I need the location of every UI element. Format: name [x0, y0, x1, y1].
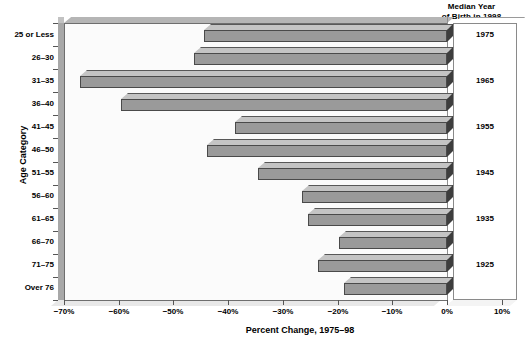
- x-axis-label-5: −30%: [261, 307, 305, 316]
- y-axis-label-wrap: 36–40: [0, 99, 54, 108]
- x-axis-tick: [173, 300, 174, 305]
- bar-front-face: [302, 191, 447, 203]
- y-axis-label-wrap: 31–35: [0, 76, 54, 85]
- y-axis-tick: [53, 23, 58, 24]
- y-axis-label-wrap: 66–70: [0, 237, 54, 246]
- x-axis-tick: [283, 300, 284, 305]
- bar-7: [258, 162, 453, 185]
- bar-front-face: [339, 237, 447, 249]
- y-axis-tick: [53, 300, 58, 301]
- y-axis-tick: [53, 185, 58, 186]
- y-axis-label-8: 56–60: [2, 191, 54, 200]
- y-axis-label-6: 46–50: [2, 145, 54, 154]
- y-axis-label-3: 31–35: [2, 76, 54, 85]
- bar-10: [339, 231, 453, 254]
- y-axis-label-wrap: 61–65: [0, 214, 54, 223]
- x-axis-label-7: −10%: [370, 307, 414, 316]
- y-axis-tick: [53, 162, 58, 163]
- y-axis-label-wrap: 25 or Less: [0, 30, 54, 39]
- x-axis-tick: [228, 300, 229, 305]
- median-year-value-1: 1975: [453, 30, 517, 39]
- median-year-value-3: 1955: [453, 122, 517, 131]
- bar-end-cap: [447, 277, 453, 295]
- y-axis-label-wrap: 26–30: [0, 53, 54, 62]
- bar-11: [318, 254, 453, 277]
- x-axis-label-3: −50%: [151, 307, 195, 316]
- y-axis-label-2: 26–30: [2, 53, 54, 62]
- bar-front-face: [204, 30, 447, 42]
- x-axis-tick: [338, 300, 339, 305]
- x-axis-label-2: −60%: [97, 307, 141, 316]
- y-axis-tick: [53, 92, 58, 93]
- bar-front-face: [207, 145, 447, 157]
- x-axis-label-1: −70%: [42, 307, 86, 316]
- x-axis-label-4: −40%: [206, 307, 250, 316]
- bar-front-face: [258, 168, 447, 180]
- median-year-value-4: 1945: [453, 168, 517, 177]
- bar-8: [302, 185, 453, 208]
- y-axis-label-9: 61–65: [2, 214, 54, 223]
- median-year-value-6: 1925: [453, 260, 517, 269]
- y-axis-tick: [53, 138, 58, 139]
- median-year-value-2: 1965: [453, 76, 517, 85]
- median-year-value-5: 1935: [453, 214, 517, 223]
- y-axis-tick: [53, 277, 58, 278]
- y-axis-label-10: 66–70: [2, 237, 54, 246]
- y-axis-tick: [53, 254, 58, 255]
- bar-front-face: [308, 214, 447, 226]
- bar-9: [308, 208, 453, 231]
- bar-4: [121, 93, 453, 116]
- bar-5: [235, 116, 453, 139]
- bar-front-face: [121, 99, 447, 111]
- bar-front-face: [80, 76, 447, 88]
- y-axis-label-5: 41–45: [2, 122, 54, 131]
- bar-1: [204, 24, 453, 47]
- bar-12: [344, 277, 453, 300]
- y-axis-tick: [53, 208, 58, 209]
- y-axis-label-7: 51–55: [2, 168, 54, 177]
- bar-front-face: [318, 260, 447, 272]
- bar-front-face: [235, 122, 447, 134]
- y-axis-label-1: 25 or Less: [2, 30, 54, 39]
- x-axis-label-6: −20%: [316, 307, 360, 316]
- y-axis-tick: [53, 69, 58, 70]
- x-axis-tick: [119, 300, 120, 305]
- y-axis-label-wrap: Over 76: [0, 283, 54, 292]
- x-axis-tick: [447, 300, 448, 305]
- y-axis-tick: [53, 115, 58, 116]
- y-axis-tick: [53, 231, 58, 232]
- bar-6: [207, 139, 453, 162]
- x-axis-title: Percent Change, 1975–98: [140, 325, 460, 335]
- y-axis-tick: [53, 46, 58, 47]
- bar-3: [80, 70, 453, 93]
- y-axis-label-11: 71–75: [2, 260, 54, 269]
- x-axis-tick: [392, 300, 393, 305]
- x-axis-tick: [64, 300, 65, 305]
- y-axis-label-wrap: 71–75: [0, 260, 54, 269]
- bar-front-face: [344, 283, 447, 295]
- bar-2: [194, 47, 453, 70]
- x-axis-label-8: 0%: [425, 307, 469, 316]
- x-axis-tick: [502, 300, 503, 305]
- x-axis-label-9: 10%: [480, 307, 524, 316]
- y-axis-title: Age Category: [18, 110, 28, 200]
- y-axis-label-4: 36–40: [2, 99, 54, 108]
- y-axis-label-12: Over 76: [2, 283, 54, 292]
- bar-front-face: [194, 53, 447, 65]
